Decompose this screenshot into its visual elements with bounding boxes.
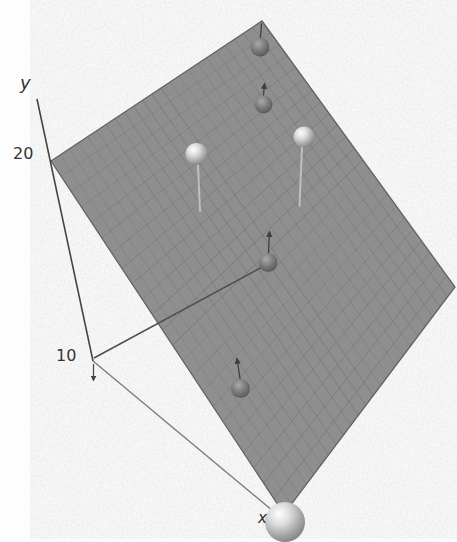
data-point-sphere xyxy=(231,379,250,398)
data-point-sphere xyxy=(294,127,315,148)
y-axis-label: y xyxy=(20,74,31,92)
data-point-sphere xyxy=(251,38,270,57)
y-axis-tick-10: 10 xyxy=(56,348,76,364)
3d-regression-plane-figure: y 20 10 x xyxy=(0,0,457,542)
y-axis-tick-20: 20 xyxy=(13,146,33,162)
plane-texture xyxy=(51,21,455,514)
data-point-sphere xyxy=(259,253,278,272)
data-point-sphere xyxy=(265,502,305,542)
plot-canvas xyxy=(0,0,457,542)
data-point-sphere xyxy=(186,143,208,165)
x-axis-label: x xyxy=(258,511,267,526)
data-point-sphere xyxy=(255,96,273,114)
